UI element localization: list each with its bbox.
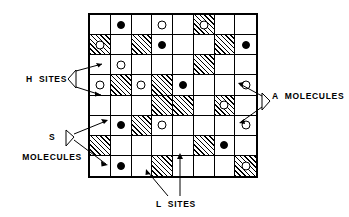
h-site-cell [194,75,215,95]
h-site-cell [90,116,111,136]
h-site-cell [235,96,256,116]
h-site-cell [194,96,215,116]
h-site-cell [235,35,256,55]
a-molecule [199,20,208,29]
h-site-cell [235,55,256,75]
a-molecule [95,40,104,49]
h-site-cell [235,136,256,156]
h-site-cell [90,96,111,116]
h-site-cell [111,35,132,55]
s-molecule [179,81,187,89]
h-site-cell [111,136,132,156]
h-site-cell [173,156,194,176]
h-site-cell [90,15,111,35]
h-site-cell [215,156,236,176]
h-site-cell [132,136,153,156]
h-site-cell [111,15,132,35]
h-site-cell [111,55,132,75]
a-molecule [116,60,125,69]
h-site-cell [90,156,111,176]
figure-canvas: H SITES S MOLECULES A MOLECULES L SITES [0,0,349,217]
l-site-cell [152,156,173,176]
label-s-molecules-line2: MOLECULES [22,152,82,162]
h-site-cell [194,156,215,176]
s-molecule [117,162,125,170]
h-site-cell [90,55,111,75]
h-site-cell [111,116,132,136]
l-site-cell [173,96,194,116]
h-site-cell [90,75,111,95]
h-site-cell [132,75,153,95]
h-site-cell [111,156,132,176]
l-site-cell [194,15,215,35]
h-site-cell [215,15,236,35]
l-site-cell [90,35,111,55]
h-site-cell [173,136,194,156]
h-site-cell [173,116,194,136]
h-site-cell [215,75,236,95]
a-molecule [241,161,250,170]
h-site-cell [215,116,236,136]
h-site-cell [194,116,215,136]
s-molecule [220,141,228,149]
a-molecule [220,101,229,110]
a-molecule [137,80,146,89]
h-site-cell [111,96,132,116]
label-s-molecules-line1: S [49,132,55,142]
a-molecule [95,80,104,89]
s-molecule [117,121,125,129]
h-site-cell [132,156,153,176]
h-site-cell [152,35,173,55]
h-site-cell [132,96,153,116]
h-site-cell [235,116,256,136]
s-molecule [158,41,166,49]
label-s-molecules: S MOLECULES [8,122,84,172]
h-site-cell [152,116,173,136]
l-site-cell [194,136,215,156]
lattice-grid [88,13,258,178]
label-a-molecules: A MOLECULES [272,91,344,101]
l-site-cell [111,75,132,95]
l-site-cell [90,136,111,156]
l-site-cell [152,75,173,95]
s-molecule [117,21,125,29]
l-site-cell [152,96,173,116]
s-molecule [242,41,250,49]
h-site-cell [132,15,153,35]
h-site-cell [152,55,173,75]
l-site-cell [132,116,153,136]
label-l-sites: L SITES [156,199,196,209]
l-site-cell [215,96,236,116]
h-site-cell [152,136,173,156]
l-site-cell [215,35,236,55]
h-site-cell [215,136,236,156]
a-molecule [241,121,250,130]
h-site-cell [235,75,256,95]
a-molecule [241,80,250,89]
h-site-cell [235,15,256,35]
h-site-cell [173,15,194,35]
h-site-cell [173,55,194,75]
a-molecule [158,20,167,29]
l-site-cell [235,156,256,176]
h-site-cell [194,35,215,55]
h-site-cell [173,35,194,55]
label-h-sites: H SITES [26,74,67,84]
l-site-cell [194,55,215,75]
h-site-cell [215,55,236,75]
a-molecule [158,121,167,130]
l-site-cell [132,35,153,55]
h-site-cell [152,15,173,35]
h-site-cell [173,75,194,95]
h-site-cell [132,55,153,75]
